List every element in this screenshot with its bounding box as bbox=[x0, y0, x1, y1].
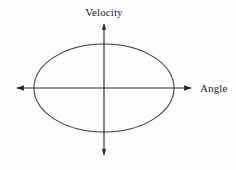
x-axis-label: Angle bbox=[200, 82, 227, 94]
y-axis-label: Velocity bbox=[85, 6, 123, 18]
phase-portrait-canvas: Velocity Angle bbox=[0, 0, 236, 170]
phase-portrait-figure: Velocity Angle bbox=[0, 0, 236, 170]
